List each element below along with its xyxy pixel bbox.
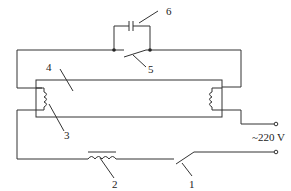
capacitor xyxy=(114,11,158,50)
left-filament xyxy=(36,88,64,131)
top-wire-left xyxy=(17,50,114,88)
lamp-tube xyxy=(36,80,222,117)
starter-switch xyxy=(114,50,150,67)
terminal-bottom xyxy=(274,150,278,154)
label-3: 3 xyxy=(64,129,70,141)
terminal-top xyxy=(274,122,278,126)
label-6: 6 xyxy=(166,5,172,17)
label-4: 4 xyxy=(46,61,52,73)
label-1: 1 xyxy=(189,178,195,190)
ballast xyxy=(88,152,116,178)
top-wire-right xyxy=(150,50,241,87)
main-switch xyxy=(176,152,274,176)
circuit-diagram: 6 5 4 3 2 1 ~220 V xyxy=(0,0,291,191)
right-filament xyxy=(210,88,223,110)
right-lower-wire xyxy=(222,110,274,124)
label-2: 2 xyxy=(112,178,118,190)
supply-voltage-label: ~220 V xyxy=(252,131,285,143)
label-5: 5 xyxy=(148,63,154,75)
